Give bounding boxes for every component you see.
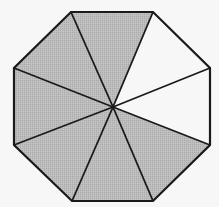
octagon-fraction-diagram <box>0 0 219 207</box>
